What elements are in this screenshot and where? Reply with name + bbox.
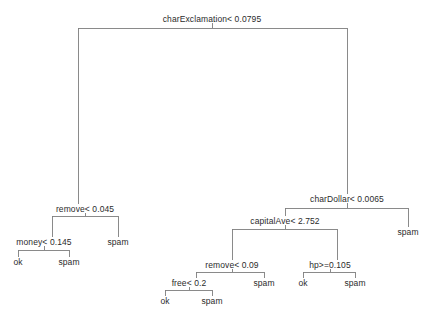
- tree-leaf-label: spam: [397, 228, 418, 237]
- tree-split-label: charDollar< 0.0065: [310, 195, 384, 204]
- tree-leaf-label: spam: [344, 279, 365, 288]
- tree-leaf-label: ok: [160, 297, 169, 306]
- tree-leaf-label: ok: [13, 258, 22, 267]
- tree-leaf-label: spam: [58, 258, 79, 267]
- decision-tree-figure: charExclamation< 0.0795remove< 0.045mone…: [0, 0, 440, 316]
- tree-leaf-label: spam: [107, 238, 128, 247]
- tree-split-label: capitalAve< 2.752: [250, 217, 319, 226]
- tree-leaf-label: ok: [298, 279, 307, 288]
- tree-split-label: remove< 0.045: [56, 205, 114, 214]
- tree-split-label: money< 0.145: [16, 238, 71, 247]
- tree-split-label: remove< 0.09: [205, 261, 258, 270]
- tree-split-label: free< 0.2: [172, 279, 207, 288]
- tree-split-label: hp>=0.105: [309, 261, 351, 270]
- tree-split-label: charExclamation< 0.0795: [163, 15, 261, 24]
- tree-leaf-label: spam: [201, 297, 222, 306]
- tree-leaf-label: spam: [253, 279, 274, 288]
